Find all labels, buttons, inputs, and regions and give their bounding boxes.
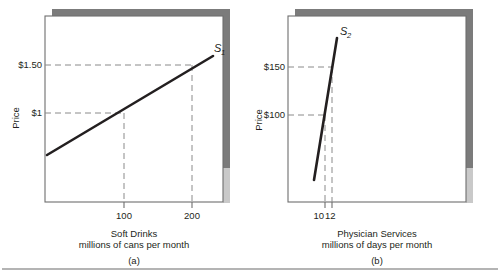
panel-b-y-axis-title: Price (253, 109, 264, 131)
panel-b-shadow-right (466, 9, 473, 195)
panel-a-curve-label-subscript: 1 (221, 48, 225, 57)
panel-a-x-axis-title-line1: Soft Drinks (111, 228, 158, 239)
panel-b-y-tick-100: $100 (264, 109, 285, 120)
panel-a-y-tick-150: $1.50 (18, 59, 42, 70)
panel-b-shadow-fade (466, 168, 473, 203)
panel-a-shadow-fade (223, 168, 230, 203)
panel-b-shadow-top (295, 9, 473, 16)
panel-b-y-tick-150: $150 (264, 61, 285, 72)
panel-a-shadow-right (223, 9, 230, 195)
panel-a-plot-frame (45, 16, 223, 202)
panel-a-x-axis-title-line2: millions of cans per month (79, 239, 189, 250)
panel-a-caption: (a) (128, 255, 140, 266)
panel-b: S 2 $150 $100 10 12 Price Physician Serv… (253, 9, 473, 266)
panel-a-x-tick-200: 200 (184, 210, 200, 221)
panel-b-x-tick-10: 10 (313, 210, 324, 221)
panel-a-shadow-top (52, 9, 230, 16)
supply-elasticity-figure: S 1 $1.50 $1 100 200 Price Soft Drinks m… (0, 0, 500, 273)
panel-b-x-axis-title-line2: millions of days per month (322, 239, 432, 250)
figure-canvas: S 1 $1.50 $1 100 200 Price Soft Drinks m… (0, 0, 500, 273)
panel-b-x-tick-12: 12 (325, 210, 336, 221)
panel-a-x-tick-100: 100 (116, 210, 132, 221)
panel-b-curve-label-subscript: 2 (346, 31, 352, 40)
panel-a-y-tick-100: $1 (31, 107, 42, 118)
panel-b-x-axis-title-line1: Physician Services (337, 228, 417, 239)
panel-a: S 1 $1.50 $1 100 200 Price Soft Drinks m… (10, 9, 230, 266)
panel-a-y-axis-title: Price (10, 107, 21, 129)
panel-b-caption: (b) (371, 255, 383, 266)
